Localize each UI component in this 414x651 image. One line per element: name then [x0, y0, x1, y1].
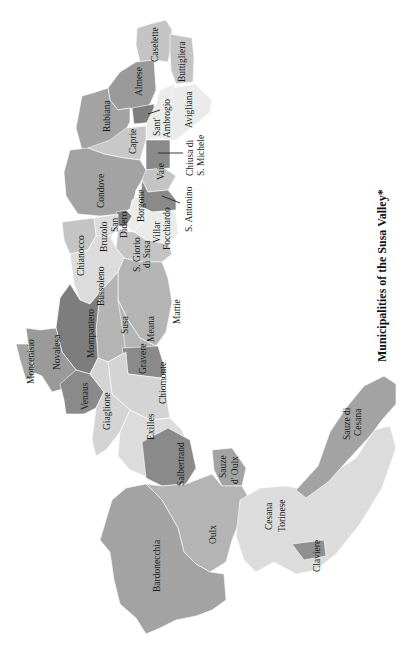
label-novalesa: Novalesa [52, 334, 62, 370]
label-chiomonte: Chiomonte [158, 362, 168, 404]
label-moncenisio: Moncenisio [26, 339, 36, 384]
label-chianocco: Chianocco [76, 235, 86, 276]
label-chiusa-2: S. Michele [196, 135, 206, 176]
label-bruzolo: Bruzolo [99, 221, 109, 252]
label-bussoleno: Bussoleno [96, 266, 106, 306]
label-susa: Susa [120, 315, 130, 334]
label-sauze-d-oulx-1: Sauze [218, 455, 228, 478]
label-cesana-2: Torinese [277, 499, 287, 532]
label-sant-ambrogio-2: Ambrogio [162, 99, 172, 138]
label-venaus: Venaus [80, 382, 90, 410]
label-mattie: Mattie [172, 299, 182, 324]
label-giaglione: Giaglione [102, 393, 112, 430]
label-gravere: Gravere [138, 343, 148, 374]
label-caprie: Caprie [128, 129, 138, 154]
label-villar-2: Focchiardo [162, 207, 172, 250]
label-borgone: Borgone [136, 189, 146, 222]
label-san-didero-2: Didero [119, 211, 129, 238]
label-exilles: Exilles [146, 413, 156, 440]
label-sant-ambrogio-1: Sant' [152, 117, 162, 136]
label-rubiana: Rubiana [102, 100, 112, 132]
label-oulx: Oulx [208, 525, 218, 544]
label-caselette: Caselette [150, 27, 160, 62]
label-s-giorio-1: S. Giorio [132, 237, 142, 272]
label-almese: Almese [134, 67, 144, 96]
label-condove: Condove [96, 174, 106, 208]
label-vaie: Vaie [156, 163, 166, 180]
label-avigliana: Avigliana [184, 90, 194, 128]
region-almese [108, 60, 156, 112]
label-claviere: Claviere [312, 540, 322, 572]
label-sauze-d-oulx-2: d' Oulx [230, 456, 240, 484]
figure-title: Municipalities of the Susa Valley* [375, 189, 389, 362]
susa-valley-map: Caselette Buttigliera Almese Rubiana San… [0, 0, 414, 651]
label-sauze-di-cesana-2: Cesana [353, 408, 363, 436]
label-sauze-di-cesana-1: Sauze di [342, 407, 352, 440]
label-cesana-1: Cesana [264, 502, 274, 530]
label-salbertrand: Salbertrand [176, 442, 186, 486]
label-mompantero: Mompantero [86, 309, 96, 358]
label-s-giorio-2: di Susa [142, 240, 152, 268]
label-s-antonino: S. Antonino [184, 186, 194, 232]
label-villar-1: Villar [152, 221, 162, 243]
label-bardonecchia: Bardonecchia [152, 539, 162, 592]
label-chiusa-1: Chiusa di [185, 139, 195, 176]
label-meana: Meana [146, 315, 156, 342]
label-buttigliera: Buttigliera [177, 41, 187, 82]
